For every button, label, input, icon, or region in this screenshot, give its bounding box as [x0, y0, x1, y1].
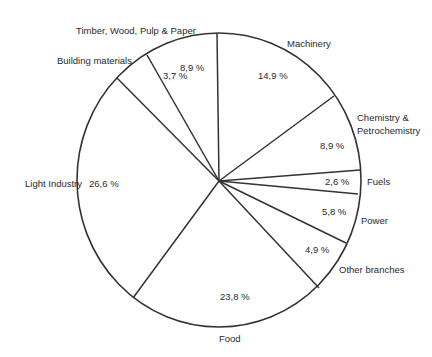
- value-food: 23,8 %: [220, 291, 250, 302]
- label-timber: Timber, Wood, Pulp & Paper: [76, 25, 196, 36]
- label-chemistry-line2: Petrochemistry: [357, 125, 421, 136]
- label-light: Light Industry: [25, 178, 82, 189]
- value-other: 4,9 %: [305, 244, 330, 255]
- pie-chart: 14,9 % 8,9 % 2,6 % 5,8 % 4,9 % 23,8 % 26…: [0, 0, 432, 357]
- value-machinery: 14,9 %: [258, 70, 288, 81]
- label-building: Building materials: [57, 55, 132, 66]
- value-timber: 8,9 %: [180, 62, 205, 73]
- value-light: 26,6 %: [89, 178, 119, 189]
- label-chemistry-line1: Chemistry &: [357, 112, 409, 123]
- value-chemistry: 8,9 %: [320, 140, 345, 151]
- value-power: 5,8 %: [322, 206, 347, 217]
- label-power: Power: [361, 215, 388, 226]
- label-other: Other branches: [339, 264, 405, 275]
- label-fuels: Fuels: [367, 176, 390, 187]
- label-food: Food: [219, 333, 241, 344]
- label-machinery: Machinery: [287, 38, 331, 49]
- value-fuels: 2,6 %: [325, 176, 350, 187]
